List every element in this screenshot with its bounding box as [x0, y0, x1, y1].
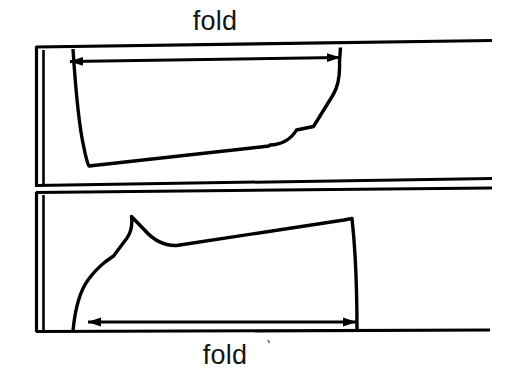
pattern-piece-lower-outline: [73, 217, 357, 332]
fold-label-top: fold: [0, 8, 430, 35]
fabric-edge-bottom-selvage: [36, 330, 490, 332]
fabric-edge-top-selvage: [36, 41, 492, 48]
fold-label-bottom: fold: [0, 342, 450, 369]
top-dimension-arrow: [70, 58, 340, 62]
pattern-piece-upper-outline: [73, 48, 341, 167]
pattern-fold-diagram: fold fold: [0, 0, 515, 380]
fabric-edge-middle-upper: [36, 179, 492, 186]
fabric-edge-middle-lower: [36, 188, 492, 193]
diagram-canvas: [0, 0, 515, 380]
